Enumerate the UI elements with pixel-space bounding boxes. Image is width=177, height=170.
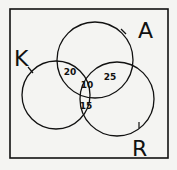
circle-r	[80, 62, 154, 136]
venn-diagram: A K R 20 25 10 15	[0, 0, 177, 170]
region-a-r: 25	[104, 72, 117, 82]
circle-a	[57, 22, 133, 98]
label-k: K	[14, 46, 29, 71]
label-r: R	[132, 136, 147, 161]
region-a-k: 20	[64, 67, 77, 77]
region-k-r: 15	[80, 101, 93, 111]
label-a: A	[138, 18, 153, 43]
region-a-k-r: 10	[81, 80, 94, 90]
